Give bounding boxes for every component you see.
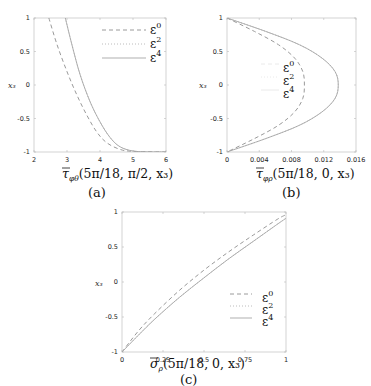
- y-tick-label: 1: [219, 14, 223, 22]
- svg-text:σρ(5π/18, 0, x₃): σρ(5π/18, 0, x₃): [150, 356, 245, 373]
- y-tick-label: 0.5: [213, 48, 223, 56]
- panel-b: 10.50-0.5-1 00.0040.0080.0120.016 ε0ε2ε4…: [199, 14, 365, 200]
- x-tick-label: 6: [164, 156, 168, 164]
- legend-entry: ε4: [283, 85, 294, 101]
- y-tick-label: -0.5: [210, 115, 223, 123]
- y-tick-label: -1: [112, 348, 118, 356]
- legend: ε0ε2ε4: [102, 21, 161, 65]
- y-ticks: 10.50-0.5-1: [17, 14, 166, 156]
- svg-text:τφθ(5π/18, π/2, x₃): τφθ(5π/18, π/2, x₃): [62, 166, 173, 183]
- x-tick-label: 0.016: [347, 156, 366, 164]
- x-axis-label: τφρ(5π/18, 0, x₃): [256, 166, 355, 183]
- curves: [49, 18, 166, 152]
- x-tick-label: 4: [98, 156, 102, 164]
- x-tick-label: 0.012: [314, 156, 333, 164]
- y-tick-label: 0: [26, 81, 30, 89]
- y-tick-label: 0.5: [20, 48, 30, 56]
- y-tick-label: 1: [114, 208, 118, 216]
- series-ε0: [49, 18, 166, 152]
- y-axis-label: x₃: [199, 81, 207, 90]
- x-tick-label: 0: [120, 356, 124, 364]
- y-tick-label: -1: [24, 148, 30, 156]
- x-axis-label: σρ(5π/18, 0, x₃): [150, 356, 245, 373]
- x-tick-label: 5: [131, 156, 135, 164]
- figure: 10.50-0.5-1 23456 ε0ε2ε4 x₃ τφθ(5π/18, π…: [0, 0, 371, 386]
- y-tick-label: 0.5: [108, 243, 118, 251]
- x-axis-label: τφθ(5π/18, π/2, x₃): [62, 166, 173, 183]
- series-ε4: [122, 218, 286, 352]
- x-tick-label: 3: [65, 156, 69, 164]
- plot-frame: [34, 18, 166, 152]
- x-ticks: 00.0040.0080.0120.016: [225, 18, 365, 164]
- x-tick-label: 0: [225, 156, 229, 164]
- legend-entry: ε4: [150, 49, 161, 65]
- y-tick-label: 0: [219, 81, 223, 89]
- panel-c: 10.50-0.5-1 00.250.50.751 ε0ε2ε4 x₃ σρ(5…: [95, 208, 288, 386]
- panel-caption: (c): [180, 372, 197, 386]
- y-tick-label: -1: [217, 148, 223, 156]
- legend: ε0ε2ε4: [261, 59, 294, 101]
- x-tick-label: 0.004: [250, 156, 269, 164]
- x-tick-label: 1: [284, 356, 288, 364]
- y-tick-label: 0: [114, 278, 118, 286]
- y-tick-label: 1: [26, 14, 30, 22]
- legend-entry: ε4: [262, 313, 273, 329]
- x-tick-label: 2: [32, 156, 36, 164]
- legend: ε0ε2ε4: [230, 289, 273, 329]
- x-ticks: 23456: [32, 18, 168, 164]
- panel-a: 10.50-0.5-1 23456 ε0ε2ε4 x₃ τφθ(5π/18, π…: [8, 14, 173, 200]
- curves: [122, 215, 286, 352]
- y-tick-label: -0.5: [17, 115, 30, 123]
- svg-text:τφρ(5π/18, 0, x₃): τφρ(5π/18, 0, x₃): [256, 166, 355, 183]
- panel-caption: (b): [282, 185, 300, 200]
- panel-caption: (a): [88, 185, 106, 200]
- y-tick-label: -0.5: [105, 313, 118, 321]
- plot-frame: [122, 212, 286, 352]
- x-tick-label: 0.008: [282, 156, 301, 164]
- series-ε2: [122, 218, 286, 352]
- y-axis-label: x₃: [95, 279, 103, 288]
- y-axis-label: x₃: [8, 81, 16, 90]
- y-ticks: 10.50-0.5-1: [105, 208, 286, 356]
